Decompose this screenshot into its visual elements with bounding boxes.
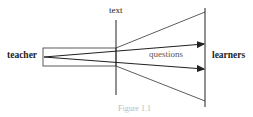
questions-label: questions (149, 49, 183, 59)
learners-label: learners (212, 50, 245, 60)
teacher-box (43, 48, 116, 66)
lower-diverge-line (116, 66, 205, 101)
upper-diverge-line (116, 12, 205, 48)
text-label: text (109, 5, 123, 15)
figure-caption: Figure 1.1 (118, 104, 151, 113)
teacher-label: teacher (7, 50, 37, 60)
